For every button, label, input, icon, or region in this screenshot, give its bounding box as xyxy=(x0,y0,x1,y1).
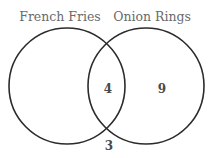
venn-diagram: French Fries Onion Rings 4 9 3 xyxy=(0,0,217,158)
region-onion-rings-only: 9 xyxy=(158,82,166,96)
set-label-french-fries: French Fries xyxy=(19,9,101,24)
region-neither: 3 xyxy=(105,139,113,153)
region-both: 4 xyxy=(104,82,112,96)
set-label-onion-rings: Onion Rings xyxy=(113,9,191,24)
